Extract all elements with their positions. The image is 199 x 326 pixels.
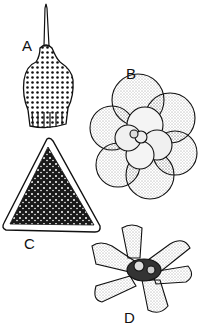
- specimen-b: [90, 74, 197, 199]
- panel-label-b: B: [126, 66, 136, 81]
- panel-label-d: D: [124, 310, 135, 325]
- panel-label-a: A: [22, 38, 32, 53]
- apical-spine: [44, 4, 49, 46]
- panel-label-c: C: [24, 236, 35, 251]
- specimen-a: [24, 4, 74, 128]
- specimen-d: [92, 225, 192, 312]
- flask-body: [24, 45, 74, 128]
- specimen-c: [3, 138, 100, 232]
